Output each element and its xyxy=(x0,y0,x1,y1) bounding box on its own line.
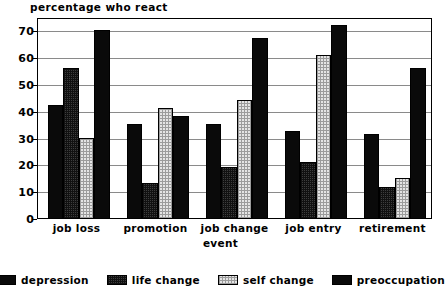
bar-group xyxy=(206,19,268,218)
bar xyxy=(221,167,237,218)
chart-title: percentage who react xyxy=(30,1,168,13)
chart-legend: depressionlife changeself changepreoccup… xyxy=(0,271,441,289)
bar-group xyxy=(285,19,347,218)
bar xyxy=(142,183,158,218)
y-tick-mark xyxy=(32,219,37,220)
legend-item: depression xyxy=(0,274,89,286)
bars-layer xyxy=(38,19,431,218)
bar xyxy=(79,138,95,218)
x-tick-label: promotion xyxy=(123,222,187,234)
bar xyxy=(395,178,411,218)
bar xyxy=(379,187,395,218)
legend-label: self change xyxy=(243,274,314,286)
legend-swatch xyxy=(218,275,238,285)
bar xyxy=(252,38,268,218)
legend-swatch xyxy=(332,275,352,285)
bar-group xyxy=(364,19,426,218)
legend-label: life change xyxy=(132,274,200,286)
x-tick-label: job entry xyxy=(285,222,341,234)
bar xyxy=(237,100,253,218)
plot-area xyxy=(37,18,432,219)
bar xyxy=(316,55,332,218)
y-axis: 010203040506070 xyxy=(0,0,34,302)
bar xyxy=(94,30,110,218)
x-axis-title: event xyxy=(0,237,441,249)
legend-swatch xyxy=(107,275,127,285)
legend-item: self change xyxy=(218,274,314,286)
legend-item: life change xyxy=(107,274,200,286)
bar xyxy=(410,68,426,218)
x-tick-label: job change xyxy=(201,222,269,234)
bar xyxy=(127,124,143,218)
bar xyxy=(63,68,79,218)
legend-item: preoccupation xyxy=(332,274,445,286)
legend-label: depression xyxy=(21,274,89,286)
bar xyxy=(331,25,347,218)
x-tick-label: job loss xyxy=(53,222,101,234)
bar xyxy=(285,131,301,218)
bar xyxy=(206,124,222,218)
legend-swatch xyxy=(0,275,16,285)
bar xyxy=(300,162,316,218)
bar xyxy=(48,105,64,218)
bar xyxy=(364,134,380,218)
bar-group xyxy=(48,19,110,218)
bar xyxy=(173,116,189,218)
bar xyxy=(158,108,174,218)
x-tick-label: retirement xyxy=(359,222,426,234)
bar-group xyxy=(127,19,189,218)
legend-label: preoccupation xyxy=(357,274,445,286)
